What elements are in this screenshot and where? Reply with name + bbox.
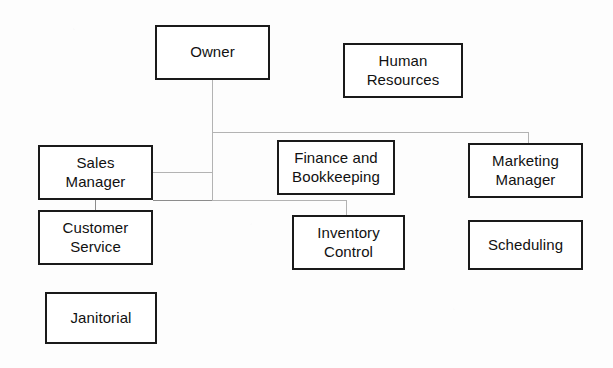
node-finance-and-bookkeeping-label: Finance and Bookkeeping xyxy=(288,149,384,186)
node-human-resources-label: Human Resources xyxy=(363,52,444,89)
node-inventory-control-label: Inventory Control xyxy=(313,224,384,261)
node-sales-manager[interactable]: Sales Manager xyxy=(38,145,153,200)
node-marketing-manager-label: Marketing Manager xyxy=(488,152,563,189)
node-marketing-manager[interactable]: Marketing Manager xyxy=(468,143,583,198)
connector-sales-branch-lower xyxy=(153,200,213,201)
connector-inventory-branch xyxy=(212,200,346,201)
node-scheduling[interactable]: Scheduling xyxy=(468,220,583,270)
node-janitorial[interactable]: Janitorial xyxy=(45,292,157,344)
connector-inventory-drop xyxy=(346,200,347,216)
node-customer-service-label: Customer Service xyxy=(59,219,133,256)
node-human-resources[interactable]: Human Resources xyxy=(343,43,463,98)
node-scheduling-label: Scheduling xyxy=(484,236,567,254)
node-owner[interactable]: Owner xyxy=(155,25,270,80)
node-janitorial-label: Janitorial xyxy=(66,309,135,327)
connector-sales-branch-upper xyxy=(153,172,213,173)
node-customer-service[interactable]: Customer Service xyxy=(38,210,153,265)
node-owner-label: Owner xyxy=(186,43,239,61)
org-chart-canvas: Owner Human Resources Sales Manager Fina… xyxy=(0,0,613,368)
connector-owner-stem xyxy=(212,80,213,132)
node-sales-manager-label: Sales Manager xyxy=(62,154,130,191)
node-inventory-control[interactable]: Inventory Control xyxy=(292,215,405,270)
connector-trunk-vertical xyxy=(212,132,213,201)
connector-spine-horizontal xyxy=(212,132,529,133)
node-finance-and-bookkeeping[interactable]: Finance and Bookkeeping xyxy=(277,140,395,195)
